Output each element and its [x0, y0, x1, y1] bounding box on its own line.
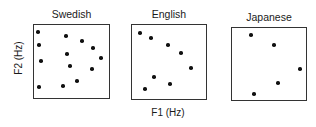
panel-title-japanese: Japanese	[219, 11, 316, 23]
data-point	[36, 30, 40, 34]
data-point	[143, 87, 147, 91]
data-point	[298, 67, 302, 71]
data-point	[272, 43, 276, 47]
data-point	[99, 56, 103, 60]
data-point	[166, 43, 170, 47]
data-point	[189, 66, 193, 70]
data-point	[80, 39, 84, 43]
data-point	[152, 75, 156, 79]
data-point	[61, 84, 65, 88]
data-point	[149, 36, 153, 40]
data-point	[75, 79, 79, 83]
data-point	[65, 52, 69, 56]
data-point	[249, 33, 253, 37]
x-axis-label: F1 (Hz)	[151, 107, 184, 118]
data-point	[276, 81, 280, 85]
data-point	[39, 59, 43, 63]
data-point	[252, 92, 256, 96]
data-point	[138, 31, 142, 35]
data-point	[168, 82, 172, 86]
scatter-panel-japanese	[231, 27, 307, 101]
data-point	[37, 85, 41, 89]
data-point	[91, 46, 95, 50]
data-point	[37, 43, 41, 47]
data-point	[179, 51, 183, 55]
panel-title-swedish: Swedish	[22, 8, 122, 20]
data-point	[64, 34, 68, 38]
scatter-panel-swedish	[33, 24, 110, 99]
data-point	[68, 64, 72, 68]
panel-title-english: English	[119, 8, 219, 20]
y-axis-label: F2 (Hz)	[13, 41, 24, 74]
data-point	[90, 67, 94, 71]
